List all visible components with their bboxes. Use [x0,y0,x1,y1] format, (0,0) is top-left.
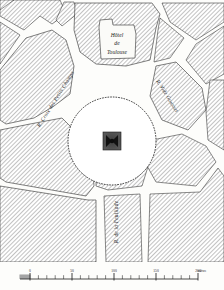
street-label-de-la-feuillade: R. de la Feuillade [113,200,119,244]
scale-tick-label: 50 [70,269,74,273]
monument-center-dot [110,139,114,143]
scale-unit-label: mètres [198,269,207,273]
scale-tick-label: 100 [111,269,117,273]
block-south-center-lower [104,194,142,262]
hotel-label-line1: Hôtel [110,32,124,38]
scale-tick-label: 150 [153,269,159,273]
hotel-label-line2: de [114,40,120,46]
hotel-label-line3: Toulouse [107,49,128,55]
map-svg: R. Croix des Petits Champs R. Vide Gouss… [0,0,224,290]
block-east-far [206,80,224,150]
scale-tick-label: 0 [29,269,31,273]
map-plan-root: R. Croix des Petits Champs R. Vide Gouss… [0,0,224,290]
monument-equestrian-statue [103,132,121,150]
